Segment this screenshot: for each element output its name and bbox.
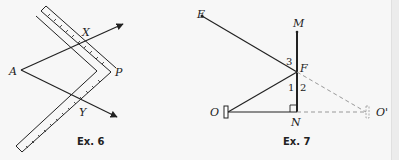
label-O-prime: O' [376, 106, 388, 119]
ex7-figure: E M F O N O' 3 1 2 Ex. 7 [196, 8, 388, 147]
label-O: O [210, 106, 219, 119]
ray-AX [21, 24, 123, 70]
label-M: M [292, 17, 305, 30]
label-P: P [114, 66, 123, 79]
image-O-prime [366, 106, 369, 118]
label-X: X [81, 26, 91, 39]
label-A: A [8, 65, 17, 78]
ex6-figure: A X P Y Ex. 6 [8, 6, 123, 152]
dashed-FO-prime [297, 72, 366, 112]
angle-label-3: 3 [286, 56, 292, 67]
angle-label-1: 1 [288, 82, 294, 93]
right-edge-strip [391, 0, 399, 160]
object-O [224, 106, 228, 118]
segment-EF [202, 16, 297, 72]
ex7-caption: Ex. 7 [283, 136, 311, 147]
label-E: E [196, 8, 205, 21]
label-F: F [299, 62, 308, 75]
ex6-caption: Ex. 6 [77, 136, 105, 147]
label-Y: Y [79, 106, 88, 119]
segment-OF [228, 72, 297, 112]
figure-canvas: A X P Y Ex. 6 E [0, 0, 399, 160]
carpenter-square [16, 6, 116, 152]
diagram-root: A X P Y Ex. 6 E [0, 0, 399, 160]
angle-label-2: 2 [300, 82, 306, 93]
label-N: N [290, 116, 301, 129]
